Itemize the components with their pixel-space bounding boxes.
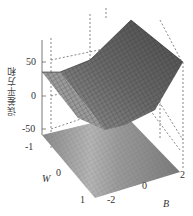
z-tick-50: 50 (26, 57, 36, 67)
b-axis-label: B (163, 199, 169, 209)
error-surface (42, 20, 183, 130)
z-tick-neg50: -50 (22, 124, 35, 134)
w-axis-label: W (42, 174, 50, 184)
w-tick-neg1: -1 (25, 142, 33, 152)
surface-plot (0, 0, 193, 216)
b-tick-neg2: -2 (107, 195, 115, 205)
w-tick-1: 1 (80, 195, 85, 205)
z-tick-0: 0 (31, 91, 36, 101)
z-axis-label: 误差平方和 (4, 66, 17, 116)
b-tick-2: 2 (180, 170, 185, 180)
w-tick-0: 0 (56, 168, 61, 178)
b-tick-0: 0 (142, 181, 147, 191)
